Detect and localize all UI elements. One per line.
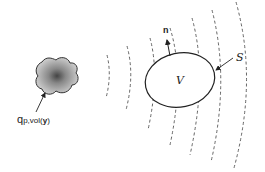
source-label-sub: p,vol( (23, 116, 43, 125)
surface-label: S (236, 51, 244, 64)
source-blob (36, 58, 78, 95)
surface-pointer-arrow (216, 58, 233, 70)
source-label-close: ) (47, 116, 50, 125)
source-pointer-arrow (36, 93, 45, 112)
volume-label: V (176, 74, 184, 87)
source-label: qp,vol(y) (17, 113, 50, 125)
normal-label: n (163, 25, 169, 35)
diagram-canvas (0, 0, 265, 172)
normal-vector-arrow (167, 40, 170, 56)
